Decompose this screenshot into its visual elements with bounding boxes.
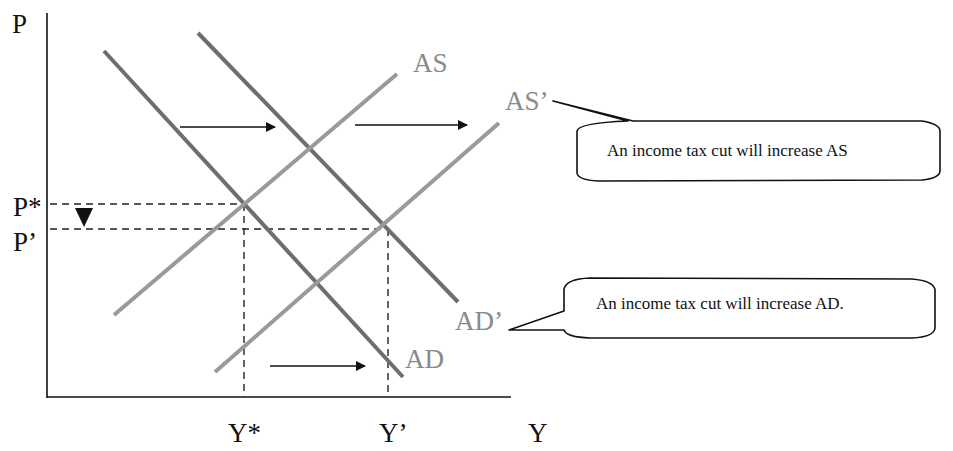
ad-label: AD xyxy=(405,344,444,374)
callout-as-text: An income tax cut will increase AS xyxy=(607,141,848,160)
p-prime-label: P’ xyxy=(13,227,37,257)
p-star-label: P* xyxy=(13,192,42,222)
ad-prime-label: AD’ xyxy=(455,306,503,336)
callout-ad-text: An income tax cut will increase AD. xyxy=(596,294,844,313)
ad-as-diagram: P Y P* P’ Y* Y’ AS AS’ AD’ AD An in xyxy=(0,0,953,451)
output-axis-label: Y xyxy=(528,418,548,448)
price-axis-label: P xyxy=(12,9,27,39)
y-star-label: Y* xyxy=(228,418,261,448)
callout-as: An income tax cut will increase AS xyxy=(553,101,940,181)
callout-ad: An income tax cut will increase AD. xyxy=(509,278,935,338)
curves xyxy=(104,33,499,377)
shift-arrows xyxy=(75,125,467,366)
as-prime-label: AS’ xyxy=(505,86,549,116)
price-decrease-arrow-icon xyxy=(75,208,93,227)
y-prime-label: Y’ xyxy=(379,418,408,448)
ad-curve xyxy=(104,51,403,377)
as-label: AS xyxy=(413,48,448,78)
